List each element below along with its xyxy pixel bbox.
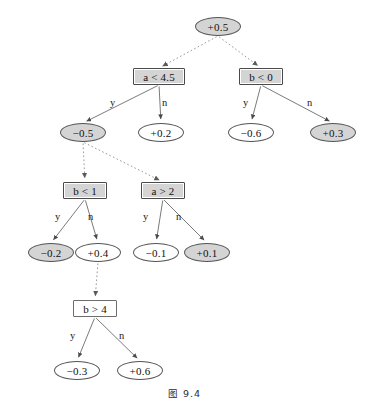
tree-node-label: −0.6 (241, 127, 262, 139)
tree-node-a45: a < 4.5 (133, 68, 185, 85)
edge-root-to-a45 (163, 37, 217, 66)
edge-b4-to-p06 (96, 318, 137, 358)
figure-canvas: +0.5a < 4.5b < 0−0.5+0.2−0.6+0.3b < 1a >… (0, 0, 369, 405)
edge-a45-to-p02 (159, 86, 161, 119)
tree-edges-layer (0, 0, 369, 405)
tree-node-root: +0.5 (195, 17, 241, 36)
edge-a2-to-p01 (164, 200, 204, 240)
tree-node-m02: −0.2 (28, 243, 74, 262)
edge-label-y-2: y (243, 97, 248, 108)
tree-node-p02: +0.2 (138, 123, 184, 142)
tree-node-label: +0.2 (151, 127, 172, 139)
edge-label-n-5: n (88, 211, 93, 222)
tree-node-p01: +0.1 (184, 243, 230, 262)
edge-b0-to-m06 (252, 86, 261, 119)
edge-label-y-8: y (70, 330, 75, 341)
figure-caption: 图 9.4 (0, 386, 369, 400)
tree-node-a2: a > 2 (141, 182, 185, 199)
tree-node-label: −0.1 (146, 247, 167, 259)
tree-node-m01: −0.1 (133, 243, 179, 262)
edge-m05-to-a2 (84, 143, 159, 181)
edge-b4-to-m03 (79, 318, 95, 357)
edge-p04-to-b4 (95, 263, 98, 296)
tree-node-label: a > 2 (151, 185, 174, 197)
edge-label-n-3: n (307, 97, 312, 108)
edge-label-y-4: y (55, 211, 60, 222)
tree-node-m03: −0.3 (54, 361, 100, 380)
tree-node-b1: b < 1 (63, 182, 107, 199)
edge-m05-to-b1 (83, 143, 85, 178)
tree-node-m06: −0.6 (228, 123, 274, 142)
tree-node-label: b < 0 (249, 71, 273, 83)
edge-label-n-9: n (119, 330, 124, 341)
edge-label-y-6: y (143, 211, 148, 222)
edge-b0-to-p03 (262, 86, 329, 121)
tree-node-label: −0.3 (67, 365, 88, 377)
edge-label-n-1: n (162, 97, 167, 108)
tree-node-label: −0.5 (73, 127, 94, 139)
tree-node-p06: +0.6 (117, 361, 163, 380)
tree-node-p03: +0.3 (310, 123, 356, 142)
tree-node-label: +0.5 (208, 21, 229, 33)
tree-node-label: +0.3 (323, 127, 344, 139)
edge-a45-to-m05 (87, 86, 158, 122)
edge-label-n-7: n (176, 211, 181, 222)
tree-node-m05: −0.5 (60, 123, 106, 142)
tree-node-label: −0.2 (41, 247, 62, 259)
tree-node-label: a < 4.5 (143, 71, 175, 83)
edge-a2-to-m01 (157, 200, 163, 239)
tree-node-label: +0.4 (88, 247, 109, 259)
edge-label-y-0: y (110, 97, 115, 108)
edge-root-to-b0 (219, 37, 258, 66)
tree-node-b4: b > 4 (73, 300, 117, 317)
tree-node-label: b < 1 (73, 185, 97, 197)
tree-node-label: +0.6 (130, 365, 151, 377)
tree-node-label: b > 4 (83, 303, 107, 315)
tree-node-b0: b < 0 (239, 68, 283, 85)
tree-node-p04: +0.4 (75, 243, 121, 262)
tree-node-label: +0.1 (197, 247, 218, 259)
